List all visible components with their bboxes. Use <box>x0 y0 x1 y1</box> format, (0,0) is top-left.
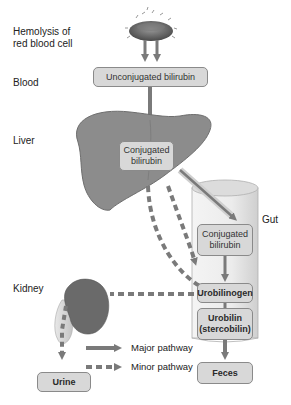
node-liver-conjugated-bilirubin: Conjugated bilirubin <box>119 141 174 171</box>
label-hemolysis: Hemolysis of red blood cell <box>13 26 83 50</box>
node-gut-conjugated-bilirubin: Conjugated bilirubin <box>197 224 253 256</box>
node-urine: Urine <box>37 372 91 392</box>
label-gut: Gut <box>262 214 278 226</box>
legend-major-label: Major pathway <box>131 342 193 354</box>
legend <box>86 348 118 367</box>
label-liver: Liver <box>13 135 35 147</box>
bilirubin-diagram: Hemolysis of red blood cell Blood Liver … <box>0 0 291 405</box>
node-urobilin: Urobilin (stercobilin) <box>197 308 253 340</box>
node-unconjugated-bilirubin: Unconjugated bilirubin <box>93 67 208 87</box>
legend-minor-label: Minor pathway <box>131 361 193 373</box>
label-kidney: Kidney <box>13 283 44 295</box>
node-urobilinogen: Urobilinogen <box>197 283 253 303</box>
red-blood-cell-icon <box>125 7 177 41</box>
node-feces: Feces <box>197 362 253 384</box>
label-blood: Blood <box>13 77 39 89</box>
